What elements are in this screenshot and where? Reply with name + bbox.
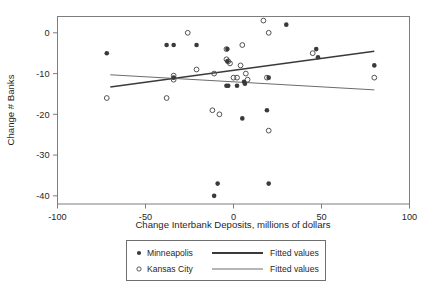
legend-label-minneapolis-fit: Fitted values [270, 248, 319, 258]
legend-label-minneapolis: Minneapolis [147, 248, 193, 258]
y-tick-label: -20 [36, 110, 49, 120]
data-point-minneapolis [225, 47, 230, 52]
y-axis-label: Change # Banks [5, 74, 16, 145]
legend-label-kansas-city-fit: Fitted values [270, 264, 319, 274]
data-point-minneapolis [171, 43, 176, 48]
data-point-minneapolis [194, 43, 199, 48]
y-tick-label: 0 [44, 28, 49, 38]
data-point-minneapolis [212, 194, 217, 199]
chart-svg: -100-50050100 0-10-20-30-40 Change Inter… [0, 0, 434, 301]
data-point-minneapolis [266, 181, 271, 186]
chart-legend: Minneapolis Fitted values Kansas City Fi… [127, 241, 326, 281]
y-tick-label: -40 [36, 191, 49, 201]
data-point-minneapolis [266, 75, 271, 80]
data-point-minneapolis [104, 51, 109, 56]
data-point-minneapolis [225, 59, 230, 64]
legend-border [127, 241, 326, 281]
legend-marker-minneapolis-icon [137, 251, 141, 255]
data-point-minneapolis [372, 63, 377, 68]
data-point-minneapolis [265, 108, 270, 113]
data-point-minneapolis [243, 81, 248, 86]
data-point-minneapolis [215, 181, 220, 186]
data-point-minneapolis [284, 22, 289, 27]
data-point-minneapolis [235, 83, 240, 88]
y-tick-label: -10 [36, 69, 49, 79]
data-point-minneapolis [226, 83, 231, 88]
legend-label-kansas-city: Kansas City [147, 264, 194, 274]
data-point-minneapolis [314, 47, 319, 52]
scatter-chart-figure: -100-50050100 0-10-20-30-40 Change Inter… [0, 0, 434, 301]
data-point-minneapolis [164, 43, 169, 48]
x-tick-label: -100 [48, 212, 66, 222]
x-axis-label: Change Interbank Deposits, millions of d… [135, 219, 330, 230]
data-point-minneapolis [316, 55, 321, 60]
x-tick-label: 100 [402, 212, 417, 222]
y-tick-label: -30 [36, 150, 49, 160]
data-point-minneapolis [240, 116, 245, 121]
data-point-minneapolis [171, 75, 176, 80]
